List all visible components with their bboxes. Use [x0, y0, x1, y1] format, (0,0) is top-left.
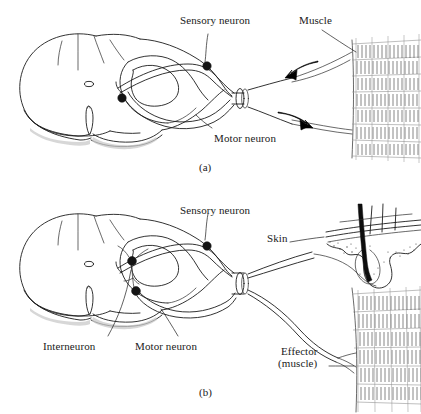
effector-muscle-b: [336, 286, 421, 412]
label-motor-neuron-a: Motor neuron: [214, 132, 276, 145]
dorsal-root-ganglion-b: [203, 242, 211, 250]
spinal-cord-cross-section-a: [20, 34, 162, 149]
label-interneuron-b: Interneuron: [43, 340, 95, 353]
interneuron-soma-b: [128, 257, 137, 266]
label-effector-line2-b: (muscle): [278, 357, 317, 370]
label-effector-line1-b: Effector: [281, 345, 318, 358]
dorsal-root-ganglion-a: [203, 62, 211, 70]
skin-section-b: [314, 204, 421, 288]
leader-sensory-neuron-a: [205, 34, 208, 62]
gray-matter-horns-b: [110, 219, 232, 313]
leader-sensory-neuron-b: [205, 214, 208, 240]
label-sensory-neuron-a: Sensory neuron: [180, 14, 250, 27]
leader-muscle-a: [322, 30, 356, 52]
spinal-cord-cross-section-b: [20, 214, 162, 329]
spinal-nerve-trunk-a: [232, 78, 292, 124]
motor-neuron-soma-b: [132, 287, 141, 296]
panel-caption-b: (b): [199, 386, 212, 398]
panel-caption-a: (a): [199, 161, 211, 173]
reflex-arc-figure: Sensory neuron Muscle Motor neuron (a) S…: [0, 0, 421, 414]
leader-motor-neuron-b: [161, 309, 178, 336]
leader-skin-b: [290, 237, 324, 242]
label-motor-neuron-b: Motor neuron: [135, 340, 197, 353]
label-skin-b: Skin: [267, 232, 288, 245]
gray-matter-horns-a: [110, 39, 232, 133]
muscle-striated-a: [352, 34, 421, 163]
label-sensory-neuron-b: Sensory neuron: [180, 204, 250, 217]
label-muscle-a: Muscle: [299, 14, 332, 27]
motor-neuron-soma-a: [118, 94, 126, 102]
panel-b-diagram: [0, 190, 421, 414]
